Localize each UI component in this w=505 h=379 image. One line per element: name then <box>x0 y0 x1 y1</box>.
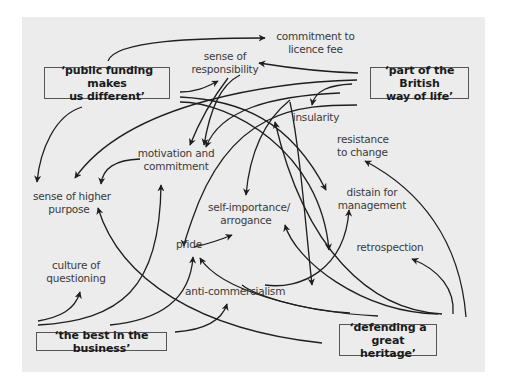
node-higher-purpose: sense of higherpurpose <box>33 190 105 215</box>
arrow-public-funding-to-responsibility <box>180 81 218 92</box>
arrow-best-business-to-pride <box>110 257 193 325</box>
arrow-heritage-to-self-importance <box>285 225 438 314</box>
arrow-public-funding-to-higher-purpose <box>37 107 82 182</box>
arrow-responsibility-to-motivation-2 <box>190 78 228 145</box>
arrow-british-way-to-responsibility <box>259 63 358 73</box>
node-licence-fee: commitment tolicence fee <box>268 30 363 55</box>
node-responsibility: sense ofresponsibility <box>190 50 260 75</box>
arrow-motivation-to-higher-purpose <box>101 159 140 184</box>
box-british-way: ‘part of the Britishway of life’ <box>370 67 469 99</box>
arrow-best-business-to-anti-commercialism <box>175 304 227 332</box>
box-best-business: ‘the best in the business’ <box>36 332 167 351</box>
node-culture-questioning: culture ofquestioning <box>45 259 107 284</box>
node-resistance: resistanceto change <box>337 133 397 158</box>
node-motivation: motivation andcommitment <box>136 147 216 172</box>
arrow-to-anti-commercialism-crossing <box>290 102 312 285</box>
node-self-importance: self-importance/arrogance <box>208 201 284 226</box>
node-pride: pride <box>174 238 204 251</box>
arrow-best-business-to-culture <box>38 292 80 321</box>
node-retrospection: retrospection <box>355 241 425 254</box>
arrow-heritage-to-retrospection <box>412 259 453 314</box>
node-insularity: insularity <box>286 111 346 124</box>
box-great-heritage: ‘defending a greatheritage’ <box>339 324 437 356</box>
arrow-heritage-to-higher-purpose <box>98 208 322 343</box>
node-distain: distain formanagement <box>333 186 411 211</box>
node-anti-commercialism: anti-commercialism <box>185 285 285 298</box>
box-public-funding: ‘public funding makesus different’ <box>44 67 170 99</box>
